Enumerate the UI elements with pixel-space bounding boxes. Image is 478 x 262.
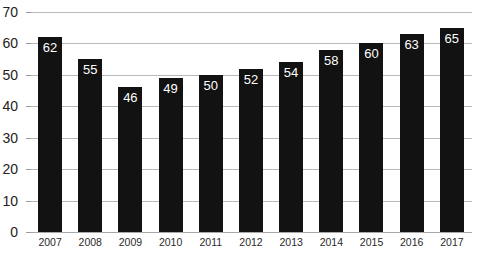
bar[interactable]: 63	[400, 34, 424, 232]
bar-value-label: 60	[359, 47, 383, 61]
bar-group: 50	[191, 12, 231, 232]
bar[interactable]: 54	[279, 62, 303, 232]
bar[interactable]: 62	[38, 37, 62, 232]
bar-value-label: 46	[118, 91, 142, 105]
x-axis-tick-label: 2009	[110, 236, 150, 249]
bar[interactable]: 50	[199, 75, 223, 232]
bars-layer: 6255464950525458606365	[30, 12, 472, 232]
bar-value-label: 63	[400, 38, 424, 52]
x-axis-tick-label: 2010	[151, 236, 191, 249]
bar[interactable]: 46	[118, 87, 142, 232]
bar-group: 52	[231, 12, 271, 232]
gridline	[30, 232, 472, 233]
x-axis-tick-label: 2011	[191, 236, 231, 249]
bar-value-label: 52	[239, 73, 263, 87]
bar-group: 54	[271, 12, 311, 232]
x-axis-tick-label: 2007	[30, 236, 70, 249]
bar-group: 65	[432, 12, 472, 232]
plot-area: 010203040506070 6255464950525458606365	[30, 12, 472, 232]
x-axis-tick-label: 2013	[271, 236, 311, 249]
x-axis-tick-label: 2017	[432, 236, 472, 249]
bar-value-label: 58	[319, 54, 343, 68]
bar[interactable]: 49	[159, 78, 183, 232]
bar-group: 58	[311, 12, 351, 232]
bar-value-label: 50	[199, 79, 223, 93]
y-axis-tick-label: 70	[0, 5, 18, 19]
y-axis-tick-label: 20	[0, 162, 18, 176]
bar-value-label: 62	[38, 41, 62, 55]
x-axis-tick-label: 2016	[392, 236, 432, 249]
bar-value-label: 49	[159, 82, 183, 96]
x-axis-tick-label: 2012	[231, 236, 271, 249]
x-axis-tick-label: 2008	[70, 236, 110, 249]
bar-chart: 010203040506070 6255464950525458606365 2…	[0, 0, 478, 262]
bar-value-label: 65	[440, 32, 464, 46]
bar-group: 49	[151, 12, 191, 232]
y-axis-tick-mark	[26, 232, 31, 233]
y-axis-tick-label: 30	[0, 131, 18, 145]
bar[interactable]: 55	[78, 59, 102, 232]
bar[interactable]: 52	[239, 69, 263, 232]
bar-group: 62	[30, 12, 70, 232]
x-axis-labels: 2007200820092010201120122013201420152016…	[30, 236, 472, 254]
y-axis-tick-label: 0	[0, 225, 18, 239]
y-axis-tick-label: 50	[0, 68, 18, 82]
bar-group: 46	[110, 12, 150, 232]
bar-group: 55	[70, 12, 110, 232]
bar-value-label: 54	[279, 66, 303, 80]
y-axis-tick-label: 40	[0, 99, 18, 113]
x-axis-tick-label: 2015	[351, 236, 391, 249]
bar[interactable]: 58	[319, 50, 343, 232]
y-axis-tick-label: 10	[0, 194, 18, 208]
x-axis-tick-label: 2014	[311, 236, 351, 249]
bar-value-label: 55	[78, 63, 102, 77]
bar[interactable]: 60	[359, 43, 383, 232]
bar[interactable]: 65	[440, 28, 464, 232]
bar-group: 60	[351, 12, 391, 232]
y-axis-tick-label: 60	[0, 36, 18, 50]
bar-group: 63	[392, 12, 432, 232]
